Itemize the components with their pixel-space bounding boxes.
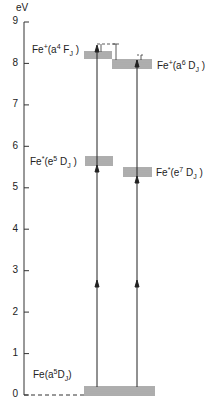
label-text: )	[68, 369, 71, 380]
level-fe-e5d	[85, 157, 113, 165]
label-text: Fe	[156, 167, 168, 178]
label-fe-plus-a4f: Fe+(a4 FJ )	[32, 43, 79, 57]
y-tick-8: 8	[6, 57, 18, 68]
label-fe-star-e5d: Fe*(e5 DJ )	[30, 155, 77, 169]
transition-left	[95, 45, 99, 387]
label-fe-plus-a6d: Fe+(a6 DJ )	[157, 59, 205, 73]
label-text: D	[57, 369, 64, 380]
y-tick-6: 6	[6, 140, 18, 151]
y-axis-unit: eV	[16, 2, 28, 13]
y-tick-0: 0	[6, 388, 18, 399]
label-text: )	[199, 60, 205, 71]
y-tick-4: 4	[6, 223, 18, 234]
label-text: Fe	[32, 44, 44, 55]
label-text: )	[73, 44, 79, 55]
label-text: Fe	[30, 156, 42, 167]
label-text: D	[57, 156, 67, 167]
y-axis	[24, 22, 29, 395]
label-text: )	[197, 167, 203, 178]
transition-right	[135, 60, 139, 387]
label-text: D	[183, 167, 193, 178]
label-text: Fe(a	[33, 369, 54, 380]
label-text: D	[186, 60, 196, 71]
label-text: )	[71, 156, 77, 167]
label-text: Fe	[157, 60, 169, 71]
y-tick-7: 7	[6, 98, 18, 109]
y-tick-1: 1	[6, 347, 18, 358]
label-fe-a5d: Fe(a5DJ)	[33, 368, 72, 382]
label-fe-star-e7d: Fe*(e7 DJ )	[156, 166, 203, 180]
level-fe-plus-a4f	[84, 52, 112, 58]
y-tick-5: 5	[6, 181, 18, 192]
label-text: (e	[170, 167, 179, 178]
label-text: (e	[44, 156, 53, 167]
y-tick-9: 9	[6, 15, 18, 26]
y-tick-2: 2	[6, 306, 18, 317]
level-fe-a5d	[84, 387, 155, 395]
label-text: (a	[173, 60, 182, 71]
label-text: (a	[48, 44, 57, 55]
y-tick-3: 3	[6, 264, 18, 275]
level-fe-plus-a6d	[112, 60, 152, 68]
